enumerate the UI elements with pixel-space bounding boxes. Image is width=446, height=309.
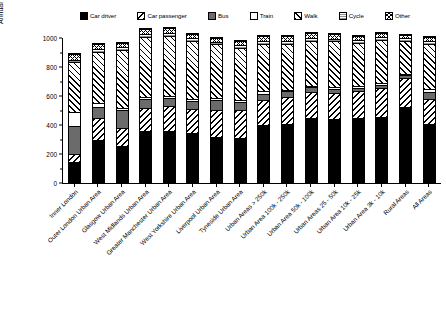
x-axis-tick-mark — [286, 184, 287, 187]
bar[interactable] — [375, 32, 388, 183]
legend-item-label: Bus — [218, 12, 228, 19]
bar-segment-car-passenger — [376, 88, 387, 116]
legend-swatch-cycle-icon — [339, 12, 347, 20]
bar-segment-car-passenger — [258, 100, 269, 125]
bar-stack[interactable] — [163, 38, 174, 183]
bar-stack[interactable] — [399, 38, 410, 183]
legend-swatch-train-icon — [250, 12, 258, 20]
bar-stack[interactable] — [375, 38, 386, 183]
x-axis-tick-mark — [357, 184, 358, 187]
bar[interactable] — [186, 33, 199, 183]
bar-segment-walk — [93, 52, 104, 103]
bar-stack[interactable] — [92, 38, 103, 183]
bar-stack[interactable] — [305, 38, 316, 183]
bar-segment-car-driver — [235, 138, 246, 182]
x-axis-line — [62, 183, 441, 184]
bar[interactable] — [234, 40, 247, 183]
bar[interactable] — [423, 36, 436, 183]
bar-segment-walk — [117, 50, 128, 108]
bar-stack[interactable] — [281, 38, 292, 183]
bar-segment-car-driver — [164, 131, 175, 182]
legend-item-label: Other — [395, 12, 410, 19]
bar-segment-car-passenger — [187, 109, 198, 133]
legend-item-other[interactable]: Other — [385, 12, 410, 20]
legend-item-cycle[interactable]: Cycle — [339, 12, 364, 20]
bar[interactable] — [92, 43, 105, 183]
x-axis-tick-mark — [121, 184, 122, 187]
bar-segment-car-driver — [187, 133, 198, 182]
chart-figure: Car driverCar passengerBusTrainWalkCycle… — [0, 0, 446, 309]
bar-segment-bus — [211, 100, 222, 110]
bar-stack[interactable] — [423, 38, 434, 183]
bar-stack[interactable] — [352, 38, 363, 183]
bar-segment-car-passenger — [140, 108, 151, 131]
y-axis-tick-label: 800 — [46, 64, 57, 71]
bar-stack[interactable] — [257, 38, 268, 183]
bar[interactable] — [210, 37, 223, 183]
bar-stack[interactable] — [234, 38, 245, 183]
bar-segment-car-passenger — [117, 128, 128, 145]
legend-item-label: Cycle — [349, 12, 364, 19]
legend-item-car-driver[interactable]: Car driver — [80, 12, 116, 20]
bar-stack[interactable] — [328, 38, 339, 183]
bar[interactable] — [281, 35, 294, 183]
bar-segment-car-driver — [329, 119, 340, 182]
bar-segment-car-driver — [93, 140, 104, 182]
y-axis-tick-label: 1000 — [43, 35, 57, 42]
legend-item-bus[interactable]: Bus — [208, 12, 228, 20]
bar-segment-car-passenger — [306, 92, 317, 118]
bar-segment-walk — [140, 37, 151, 97]
bar-stack[interactable] — [68, 38, 79, 183]
legend-item-label: Walk — [304, 12, 317, 19]
legend-item-label: Car passenger — [147, 12, 186, 19]
bar-segment-bus — [187, 101, 198, 109]
x-axis-tick-mark — [97, 184, 98, 187]
bar-segment-car-driver — [69, 162, 80, 182]
bar-segment-car-driver — [211, 137, 222, 182]
x-axis-tick-mark — [310, 184, 311, 187]
legend-item-train[interactable]: Train — [250, 12, 273, 20]
legend-item-label: Train — [260, 12, 273, 19]
bar-stack[interactable] — [116, 38, 127, 183]
bar[interactable] — [163, 27, 176, 183]
legend-item-car-passenger[interactable]: Car passenger — [137, 12, 186, 20]
bar[interactable] — [328, 33, 341, 183]
x-axis-tick-mark — [168, 184, 169, 187]
x-axis-tick-mark — [216, 184, 217, 187]
bar-segment-car-passenger — [69, 154, 80, 163]
bar[interactable] — [399, 34, 412, 183]
bar-stack[interactable] — [210, 38, 221, 183]
bar-segment-car-driver — [282, 124, 293, 182]
x-axis-tick-mark — [192, 184, 193, 187]
bar-segment-car-driver — [400, 107, 411, 182]
legend-item-walk[interactable]: Walk — [294, 12, 317, 20]
y-axis-tick-label: 200 — [46, 151, 57, 158]
bar[interactable] — [139, 28, 152, 183]
bar-segment-bus — [93, 107, 104, 118]
bar[interactable] — [352, 35, 365, 183]
y-axis-tick: 200 — [46, 151, 62, 158]
y-axis-tick: 400 — [46, 122, 62, 129]
bar[interactable] — [305, 32, 318, 183]
y-axis-tick: 600 — [46, 93, 62, 100]
bar[interactable] — [257, 35, 270, 183]
bar-segment-walk — [306, 41, 317, 86]
bar-segment-car-driver — [117, 146, 128, 182]
bar-segment-car-passenger — [211, 110, 222, 137]
legend-swatch-other-icon — [385, 12, 393, 20]
bar-stack[interactable] — [186, 38, 197, 183]
bar-segment-walk — [400, 41, 411, 74]
bar-segment-car-passenger — [424, 99, 435, 124]
bar[interactable] — [68, 53, 81, 183]
bar-segment-walk — [329, 41, 340, 87]
bar-segment-bus — [117, 110, 128, 128]
bar[interactable] — [116, 42, 129, 183]
bar-group — [62, 38, 440, 183]
bar-segment-car-passenger — [282, 97, 293, 124]
chart-legend: Car driverCar passengerBusTrainWalkCycle… — [80, 9, 410, 22]
x-axis-tick-mark — [334, 184, 335, 187]
bar-stack[interactable] — [139, 38, 150, 183]
bar-segment-walk — [424, 44, 435, 89]
y-axis-tick-label: 0 — [53, 180, 57, 187]
bar-segment-car-driver — [424, 124, 435, 182]
